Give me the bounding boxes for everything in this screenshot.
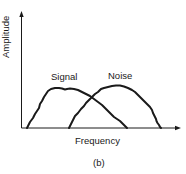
x-axis-label: Frequency [75,136,120,146]
figure-caption: (b) [93,158,105,168]
spectrum-diagram: Amplitude Signal Noise Frequency (b) [0,0,186,174]
y-axis [19,11,23,128]
x-axis-arrow-icon [175,126,181,130]
diagram-canvas [0,0,186,174]
y-axis-arrow-icon [19,11,23,17]
noise-label: Noise [108,71,132,81]
signal-curve [27,88,127,128]
y-axis-label: Amplitude [1,16,11,58]
signal-label: Signal [51,72,77,82]
x-axis [22,126,182,130]
